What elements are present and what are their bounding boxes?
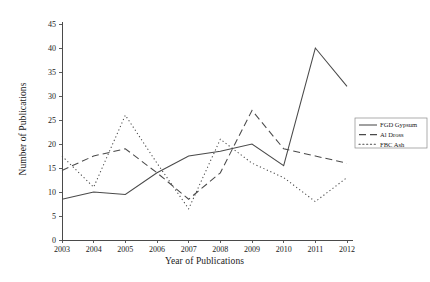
y-tick-label: 20	[48, 140, 56, 149]
y-tick-label: 5	[52, 212, 56, 221]
line-chart-canvas: 051015202530354045 200320042005200620072…	[0, 0, 430, 282]
series-line-fgd-gypsum	[62, 48, 347, 199]
y-tick-label: 0	[52, 236, 56, 245]
x-tick-label: 2008	[212, 245, 228, 254]
x-tick-label: 2004	[86, 245, 102, 254]
x-axis-ticks: 2003200420052006200720082009201020112012	[54, 240, 355, 254]
chart-legend: FGD GypsumAl DrossFBC Ash	[355, 118, 427, 148]
x-tick-label: 2006	[149, 245, 165, 254]
x-tick-label: 2009	[244, 245, 260, 254]
legend-label: FGD Gypsum	[380, 121, 418, 128]
legend-label: FBC Ash	[380, 141, 405, 148]
series-line-al-dross	[62, 110, 347, 199]
y-tick-label: 25	[48, 116, 56, 125]
x-tick-label: 2011	[307, 245, 323, 254]
data-series-group	[62, 48, 347, 209]
y-tick-label: 35	[48, 68, 56, 77]
x-tick-label: 2012	[339, 245, 355, 254]
x-axis-title: Year of Publications	[62, 256, 347, 266]
x-tick-label: 2010	[276, 245, 292, 254]
y-axis-title: Number of Publications	[18, 59, 28, 199]
chart-figure: 051015202530354045 200320042005200620072…	[0, 0, 430, 282]
x-tick-label: 2005	[117, 245, 133, 254]
legend-label: Al Dross	[380, 131, 404, 138]
y-tick-label: 10	[48, 188, 56, 197]
y-tick-label: 40	[48, 44, 56, 53]
y-tick-label: 30	[48, 92, 56, 101]
y-tick-label: 45	[48, 20, 56, 29]
x-tick-label: 2003	[54, 245, 70, 254]
y-axis-ticks: 051015202530354045	[48, 20, 62, 245]
x-tick-label: 2007	[181, 245, 197, 254]
series-line-fbc-ash	[62, 115, 347, 209]
y-tick-label: 15	[48, 164, 56, 173]
